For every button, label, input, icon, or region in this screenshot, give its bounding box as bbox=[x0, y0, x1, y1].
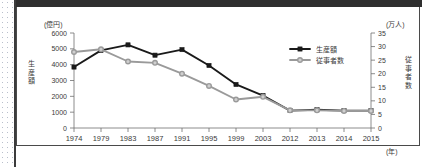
x-axis-tick-label: 2003 bbox=[255, 134, 272, 143]
legend-marker bbox=[298, 47, 302, 51]
data-point-marker bbox=[234, 82, 238, 86]
right-axis-ticks: 05101520253035 bbox=[371, 30, 386, 132]
legend-label: 従事者数 bbox=[316, 56, 344, 65]
x-axis-tick-label: 1995 bbox=[201, 134, 218, 143]
right-axis-tick-label: 10 bbox=[378, 97, 386, 104]
data-point-marker bbox=[369, 109, 374, 114]
data-point-marker bbox=[288, 108, 293, 113]
data-point-marker bbox=[153, 53, 157, 57]
data-point-marker bbox=[126, 59, 131, 64]
chart-plot: 0100020003000400050006000 05101520253035… bbox=[0, 0, 422, 167]
left-axis-tick-label: 5000 bbox=[51, 45, 67, 52]
data-point-marker bbox=[72, 65, 76, 69]
chart-legend: 生産額従事者数 bbox=[290, 45, 344, 65]
left-axis-ticks: 0100020003000400050006000 bbox=[51, 30, 74, 132]
chart-page: (億円) (万人) (年) 生 産 額 従 事 者 数 010002000300… bbox=[0, 0, 422, 167]
data-point-marker bbox=[315, 108, 320, 113]
right-axis-tick-label: 35 bbox=[378, 30, 386, 37]
right-axis-tick-label: 15 bbox=[378, 84, 386, 91]
right-axis-tick-label: 20 bbox=[378, 70, 386, 77]
data-point-marker bbox=[153, 61, 158, 66]
x-axis-tick-label: 1987 bbox=[147, 134, 164, 143]
left-axis-tick-label: 2000 bbox=[51, 93, 67, 100]
x-axis-tick-label: 2014 bbox=[336, 134, 353, 143]
legend-item-従事者数: 従事者数 bbox=[290, 56, 344, 65]
data-point-marker bbox=[126, 43, 130, 47]
right-axis-tick-label: 30 bbox=[378, 43, 386, 50]
left-axis-tick-label: 3000 bbox=[51, 77, 67, 84]
legend-label: 生産額 bbox=[316, 45, 337, 54]
data-point-marker bbox=[342, 109, 347, 114]
data-point-marker bbox=[72, 50, 77, 55]
series-line bbox=[74, 45, 371, 111]
x-axis-tick-label: 2012 bbox=[282, 134, 299, 143]
x-axis-tick-label: 1979 bbox=[93, 134, 110, 143]
x-axis-tick-label: 1974 bbox=[66, 134, 83, 143]
x-axis-tick-label: 1991 bbox=[174, 134, 191, 143]
x-axis-tick-label: 1983 bbox=[120, 134, 137, 143]
right-axis-tick-label: 0 bbox=[378, 125, 382, 132]
data-point-marker bbox=[99, 47, 104, 52]
right-axis-tick-label: 5 bbox=[378, 111, 382, 118]
chart-series-layer bbox=[72, 43, 374, 113]
legend-marker bbox=[298, 58, 303, 63]
left-axis-tick-label: 0 bbox=[63, 125, 67, 132]
left-axis-tick-label: 1000 bbox=[51, 109, 67, 116]
data-point-marker bbox=[180, 48, 184, 52]
data-point-marker bbox=[207, 63, 211, 67]
left-axis-tick-label: 6000 bbox=[51, 30, 67, 37]
series-生産額 bbox=[72, 43, 373, 113]
x-axis-tick-label: 1999 bbox=[228, 134, 245, 143]
x-axis-tick-label: 2013 bbox=[309, 134, 326, 143]
legend-item-生産額: 生産額 bbox=[290, 45, 337, 54]
data-point-marker bbox=[234, 97, 239, 102]
data-point-marker bbox=[207, 84, 212, 89]
left-axis-tick-label: 4000 bbox=[51, 61, 67, 68]
data-point-marker bbox=[261, 94, 266, 99]
right-axis-tick-label: 25 bbox=[378, 57, 386, 64]
x-axis-tick-label: 2015 bbox=[363, 134, 380, 143]
data-point-marker bbox=[180, 71, 185, 76]
x-axis-ticks: 1974197919831987199119951999200320122013… bbox=[66, 128, 380, 143]
